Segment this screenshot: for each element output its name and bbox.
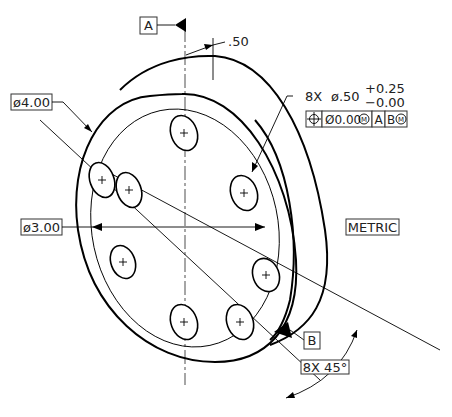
datum-a: A [140,17,186,34]
feature-control-frame: Ø0.00 M A B M [306,111,407,127]
svg-text:M: M [361,116,367,124]
units-label: METRIC [348,220,397,235]
hole-centermarks [98,129,270,326]
engineering-drawing: A .50 ø4.00 ø3.00 8X ø.50 +0.25 −0.00 [0,0,452,417]
bolt-circle-dimension: ø3.00 [21,219,265,235]
hole-count: 8X [305,89,322,104]
disc-body [76,56,327,362]
tolerance-minus: −0.00 [365,95,405,110]
datum-b-label: B [308,333,317,348]
outer-diameter-label: ø4.00 [13,95,50,110]
fcf-datum-b: B [387,113,395,127]
datum-a-label: A [144,18,153,33]
tolerance-plus: +0.25 [365,81,405,96]
hole-diameter: ø.50 [331,89,360,104]
fcf-tolerance: Ø0.00 [325,113,361,127]
bolt-holes [85,112,284,344]
svg-text:M: M [398,116,404,124]
units-note: METRIC [346,219,399,235]
angle-label: 8X 45° [303,360,347,375]
outer-diameter-dimension: ø4.00 [11,94,92,132]
angle-dimension: 8X 45° [286,330,357,398]
bolt-circle-label: ø3.00 [23,220,60,235]
fcf-datum-a: A [374,113,383,127]
thickness-label: .50 [228,34,249,49]
